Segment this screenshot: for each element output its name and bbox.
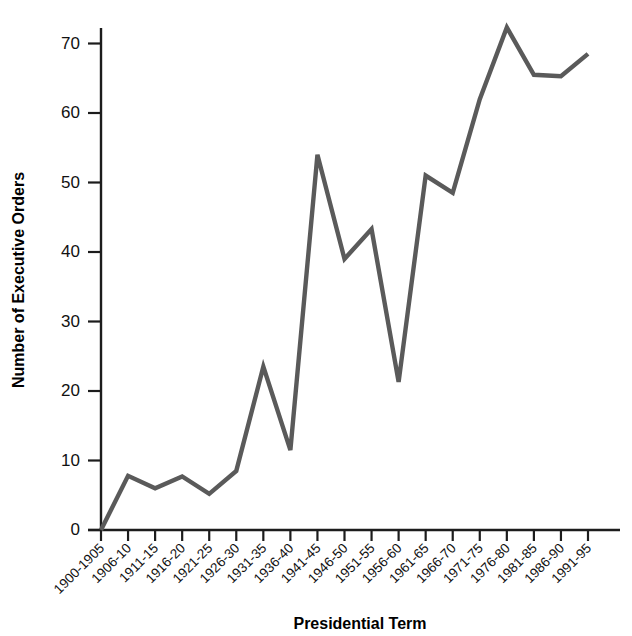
data-series-line [101, 28, 588, 530]
y-tick-label: 0 [71, 520, 80, 539]
x-axis-ticks [101, 530, 588, 541]
y-tick-label: 30 [61, 312, 80, 331]
y-tick-label: 60 [61, 103, 80, 122]
y-tick-label: 10 [61, 451, 80, 470]
y-axis-title: Number of Executive Orders [10, 172, 27, 388]
y-axis-tick-labels: 010203040506070 [61, 34, 80, 540]
x-axis-tick-labels: 1900-19051906-101911-151916-201921-25192… [51, 541, 594, 597]
x-axis-title: Presidential Term [293, 615, 426, 632]
y-tick-label: 40 [61, 242, 80, 261]
y-tick-label: 20 [61, 381, 80, 400]
chart-canvas: 010203040506070 1900-19051906-101911-151… [0, 0, 632, 636]
y-tick-label: 70 [61, 34, 80, 53]
line-chart: 010203040506070 1900-19051906-101911-151… [0, 0, 632, 636]
y-axis-ticks [88, 44, 101, 531]
y-tick-label: 50 [61, 173, 80, 192]
